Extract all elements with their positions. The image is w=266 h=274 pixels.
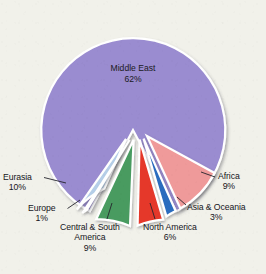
- callout-africa: Africa 9%: [218, 171, 240, 192]
- callout-percent-europe: 1%: [28, 213, 55, 223]
- callout-percent-asia-oceania: 3%: [187, 212, 245, 222]
- pie-chart-figure: Middle East 62% Eurasia 10% Europe 1% Ce…: [0, 0, 266, 274]
- callout-north-america: North America 6%: [143, 222, 197, 243]
- callout-label-eurasia: Eurasia: [3, 172, 32, 182]
- callout-eurasia: Eurasia 10%: [3, 172, 32, 193]
- callout-label-asia-oceania: Asia & Oceania: [187, 202, 245, 212]
- callout-europe: Europe 1%: [28, 203, 55, 224]
- callout-percent-eurasia: 10%: [3, 182, 32, 192]
- callout-label-north-america: North America: [143, 222, 197, 232]
- callout-label-europe: Europe: [28, 203, 55, 213]
- slice-label-middle-east: Middle East: [111, 63, 157, 73]
- callout-label-central-south-america-line2: America: [60, 232, 120, 242]
- callout-percent-north-america: 6%: [143, 232, 197, 242]
- callout-label-central-south-america-line1: Central & South: [60, 222, 120, 232]
- callout-asia-oceania: Asia & Oceania 3%: [187, 202, 245, 223]
- slice-percent-middle-east: 62%: [124, 74, 142, 84]
- callout-percent-africa: 9%: [218, 181, 240, 191]
- callout-central-south-america: Central & South America 9%: [60, 222, 120, 253]
- callout-percent-central-south-america: 9%: [60, 243, 120, 253]
- pie-chart-graphic: Middle East 62%: [0, 0, 266, 274]
- callout-label-africa: Africa: [218, 171, 240, 181]
